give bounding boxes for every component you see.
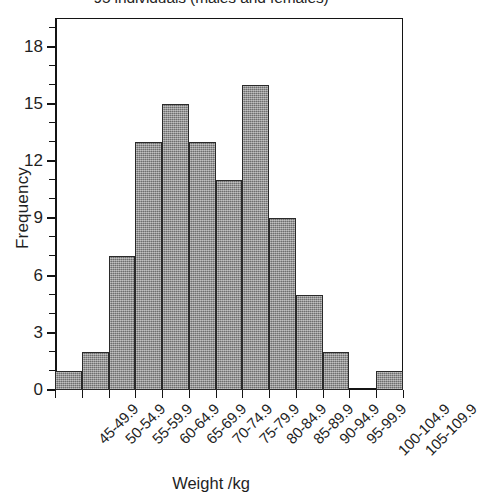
x-tick bbox=[269, 390, 270, 398]
x-tick bbox=[135, 390, 136, 398]
y-tick-label: 3 bbox=[0, 324, 43, 341]
x-tick bbox=[109, 390, 110, 398]
x-tick bbox=[376, 390, 377, 398]
y-tick-label: 9 bbox=[0, 209, 43, 226]
x-tick bbox=[242, 390, 243, 398]
y-tick-label: 0 bbox=[0, 381, 43, 398]
y-tick-minor bbox=[49, 84, 56, 85]
y-tick-major bbox=[47, 46, 56, 48]
y-tick-label: 12 bbox=[0, 152, 43, 169]
bar bbox=[269, 218, 296, 390]
y-tick-minor bbox=[49, 294, 56, 295]
x-tick bbox=[296, 390, 297, 398]
y-tick-minor bbox=[49, 141, 56, 142]
bar bbox=[135, 142, 162, 390]
y-tick-minor bbox=[49, 27, 56, 28]
bar bbox=[82, 352, 109, 390]
y-tick-major bbox=[47, 275, 56, 277]
chart-title: 95 individuals (males and females) bbox=[0, 0, 422, 7]
bar bbox=[216, 180, 243, 390]
y-tick-minor bbox=[49, 198, 56, 199]
y-tick-label: 15 bbox=[0, 95, 43, 112]
x-tick bbox=[82, 390, 83, 398]
y-tick-minor bbox=[49, 351, 56, 352]
bar bbox=[55, 371, 82, 390]
x-tick bbox=[323, 390, 324, 398]
x-axis-title: Weight /kg bbox=[0, 474, 422, 493]
y-tick-label: 6 bbox=[0, 267, 43, 284]
y-tick-label: 18 bbox=[0, 38, 43, 55]
y-tick-minor bbox=[49, 236, 56, 237]
y-tick-minor bbox=[49, 122, 56, 123]
y-tick-minor bbox=[49, 179, 56, 180]
x-tick bbox=[349, 390, 350, 398]
bar bbox=[376, 371, 403, 390]
y-tick-major bbox=[47, 103, 56, 105]
bar bbox=[323, 352, 350, 390]
x-tick bbox=[403, 390, 404, 398]
bar bbox=[296, 295, 323, 390]
x-tick bbox=[55, 390, 56, 398]
y-tick-minor bbox=[49, 255, 56, 256]
y-tick-major bbox=[47, 332, 56, 334]
bar bbox=[162, 104, 189, 390]
bar bbox=[109, 256, 136, 390]
y-tick-major bbox=[47, 217, 56, 219]
x-tick bbox=[216, 390, 217, 398]
bar bbox=[242, 85, 269, 390]
bar bbox=[189, 142, 216, 390]
y-tick-minor bbox=[49, 313, 56, 314]
y-tick-minor bbox=[49, 65, 56, 66]
x-tick bbox=[189, 390, 190, 398]
y-tick-major bbox=[47, 160, 56, 162]
x-tick bbox=[162, 390, 163, 398]
